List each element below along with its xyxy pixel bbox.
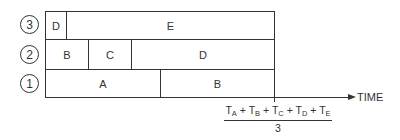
- row-2-segment-c: C: [88, 39, 132, 70]
- term-b: TB: [249, 104, 260, 116]
- arrow-right-icon: [348, 94, 356, 100]
- row-3-segment-d: D: [45, 11, 67, 40]
- row-1-segment-b: B: [160, 69, 275, 98]
- schedule-diagram: 3 2 1 D E B C D A B TIME TA + TB + TC: [0, 0, 400, 140]
- term-e: TE: [319, 104, 330, 116]
- segment-label: B: [63, 49, 70, 61]
- row-1-segment-a: A: [45, 69, 161, 98]
- segment-label: B: [214, 78, 221, 90]
- segment-label: E: [167, 20, 174, 32]
- formula-numerator: TA + TB + TC + TD + TE: [224, 104, 332, 121]
- plus-operator: +: [310, 104, 316, 116]
- row-2-number: 2: [26, 48, 33, 62]
- row-2-segment-b: B: [45, 39, 89, 70]
- completion-marker-line: [274, 11, 275, 102]
- plus-operator: +: [263, 104, 269, 116]
- segment-label: D: [199, 49, 207, 61]
- row-1-label: 1: [20, 74, 39, 93]
- row-3-number: 3: [26, 18, 33, 32]
- formula-denominator: 3: [224, 121, 332, 134]
- row-1-number: 1: [26, 77, 33, 91]
- segment-label: C: [106, 49, 114, 61]
- plus-operator: +: [287, 104, 293, 116]
- term-c: TC: [272, 104, 284, 116]
- plus-operator: +: [240, 104, 246, 116]
- time-axis-label: TIME: [357, 91, 383, 103]
- time-axis: [45, 97, 350, 98]
- row-2-segment-d: D: [131, 39, 275, 70]
- row-2-label: 2: [20, 45, 39, 64]
- completion-time-formula: TA + TB + TC + TD + TE 3: [224, 104, 332, 134]
- segment-label: A: [99, 78, 106, 90]
- term-a: TA: [225, 104, 236, 116]
- term-d: TD: [296, 104, 308, 116]
- segment-label: D: [52, 20, 60, 32]
- row-3-label: 3: [20, 15, 39, 34]
- row-3-segment-e: E: [66, 11, 275, 40]
